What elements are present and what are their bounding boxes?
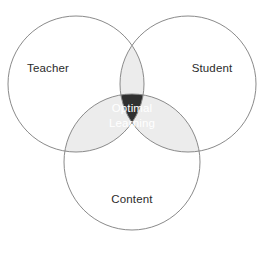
- label-optimal-learning-line2: Learning: [109, 117, 155, 129]
- label-optimal-learning-line1: Optimal: [112, 102, 153, 114]
- label-teacher: Teacher: [27, 62, 69, 74]
- label-student: Student: [192, 62, 233, 74]
- label-content: Content: [111, 193, 153, 205]
- venn-diagram: Teacher Student Content Optimal Learning: [0, 0, 264, 264]
- venn-diagram-canvas: Teacher Student Content Optimal Learning: [0, 0, 264, 264]
